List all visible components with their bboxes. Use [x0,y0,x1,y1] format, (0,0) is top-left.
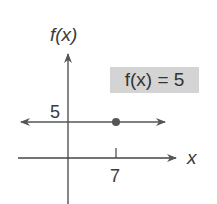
x-tick-label: 7 [110,166,120,186]
data-point [112,118,120,126]
y-axis-label: f(x) [50,24,77,45]
y-tick-label: 5 [50,102,60,122]
graph: f(x) x 5 7 [0,0,217,204]
x-axis-label: x [186,147,198,168]
